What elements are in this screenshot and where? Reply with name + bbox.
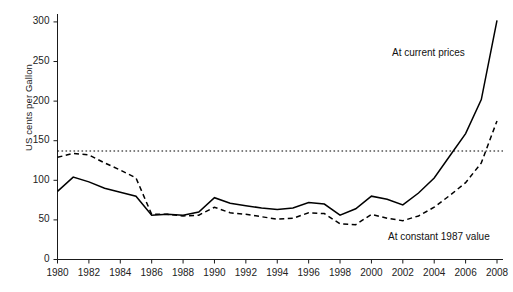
y-tick-label: 0	[24, 253, 50, 264]
y-axis-ticks	[54, 22, 58, 260]
y-tick-label: 50	[24, 213, 50, 224]
fuel-price-line-chart: US cents per Gallon 050100150200250300 1…	[0, 0, 513, 292]
x-axis-ticks	[58, 260, 498, 264]
y-tick-label: 250	[24, 55, 50, 66]
y-tick-label: 300	[24, 15, 50, 26]
plot-area	[0, 0, 513, 292]
annotation-constant-value: At constant 1987 value	[388, 231, 490, 242]
y-tick-label: 100	[24, 174, 50, 185]
y-tick-label: 150	[24, 134, 50, 145]
x-tick-label: 2008	[477, 267, 513, 278]
y-tick-label: 200	[24, 95, 50, 106]
annotation-current-prices: At current prices	[392, 47, 465, 58]
